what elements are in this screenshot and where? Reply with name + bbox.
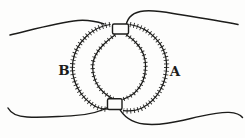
ring-diagram-canvas: B A bbox=[0, 0, 245, 138]
label-right-half: A bbox=[169, 63, 181, 79]
engraving-figure: B A bbox=[0, 0, 245, 138]
top-clasp bbox=[113, 24, 129, 34]
label-left-half: B bbox=[58, 62, 69, 78]
bottom-clasp bbox=[108, 99, 123, 110]
